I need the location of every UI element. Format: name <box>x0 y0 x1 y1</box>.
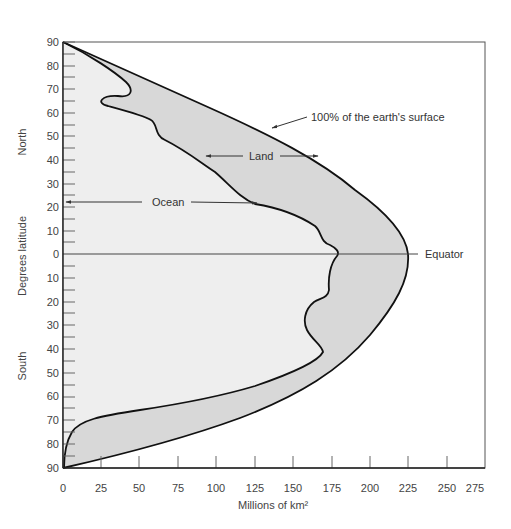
y-tick-labels-south: 10 20 30 40 50 60 70 80 90 <box>47 272 59 474</box>
x-axis-title: Millions of km² <box>238 499 309 511</box>
svg-text:200: 200 <box>361 482 379 494</box>
svg-text:70: 70 <box>47 83 59 95</box>
svg-text:150: 150 <box>284 482 302 494</box>
y-axis-title: Degrees latitude <box>16 216 28 296</box>
svg-text:125: 125 <box>246 482 264 494</box>
svg-text:10: 10 <box>47 225 59 237</box>
svg-text:30: 30 <box>47 178 59 190</box>
svg-text:50: 50 <box>133 482 145 494</box>
svg-text:90: 90 <box>47 462 59 474</box>
equator-annotation: Equator <box>425 248 464 260</box>
svg-text:10: 10 <box>47 272 59 284</box>
svg-text:60: 60 <box>47 390 59 402</box>
svg-text:20: 20 <box>47 201 59 213</box>
svg-text:275: 275 <box>466 482 484 494</box>
svg-text:30: 30 <box>47 319 59 331</box>
svg-text:25: 25 <box>95 482 107 494</box>
ocean-annotation: Ocean <box>152 196 184 208</box>
y-tick-labels-north: 90 80 70 60 50 40 30 20 10 0 <box>47 36 59 260</box>
earth-surface-annotation: 100% of the earth's surface <box>311 111 445 123</box>
svg-text:70: 70 <box>47 414 59 426</box>
svg-text:250: 250 <box>438 482 456 494</box>
svg-text:20: 20 <box>47 296 59 308</box>
svg-text:80: 80 <box>47 438 59 450</box>
svg-text:100: 100 <box>207 482 225 494</box>
svg-text:40: 40 <box>47 343 59 355</box>
svg-text:90: 90 <box>47 36 59 48</box>
svg-text:80: 80 <box>47 60 59 72</box>
svg-text:40: 40 <box>47 154 59 166</box>
svg-text:175: 175 <box>323 482 341 494</box>
x-tick-labels: 0 25 50 75 100 125 150 175 200 225 250 2… <box>60 482 484 494</box>
y-axis-north-label: North <box>16 129 28 156</box>
y-axis-south-label: South <box>16 352 28 381</box>
svg-text:50: 50 <box>47 130 59 142</box>
svg-text:60: 60 <box>47 107 59 119</box>
svg-text:50: 50 <box>47 367 59 379</box>
svg-text:0: 0 <box>60 482 66 494</box>
svg-text:0: 0 <box>53 248 59 260</box>
land-annotation: Land <box>249 150 273 162</box>
svg-text:225: 225 <box>399 482 417 494</box>
latitude-area-chart: 90 80 70 60 50 40 30 20 10 0 10 20 30 40… <box>0 0 511 529</box>
svg-text:75: 75 <box>172 482 184 494</box>
